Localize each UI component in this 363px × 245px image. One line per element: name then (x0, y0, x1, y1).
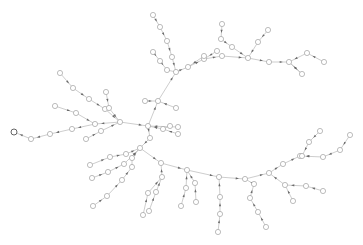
tree-node[interactable] (28, 136, 33, 141)
tree-node[interactable] (107, 154, 112, 159)
tree-node[interactable] (123, 151, 128, 156)
tree-node[interactable] (157, 24, 162, 29)
tree-node[interactable] (153, 189, 158, 194)
tree-node[interactable] (218, 36, 223, 41)
tree-node[interactable] (178, 203, 183, 208)
tree-node[interactable] (266, 170, 271, 175)
tree-node[interactable] (304, 50, 309, 55)
tree-node[interactable] (164, 38, 169, 43)
tree-node[interactable] (263, 224, 268, 229)
tree-node[interactable] (146, 208, 151, 213)
tree-node[interactable] (86, 96, 91, 101)
tree-node[interactable] (347, 132, 352, 137)
tree-node[interactable] (129, 164, 134, 169)
tree-node[interactable] (69, 126, 74, 131)
arrowhead-icon (168, 48, 170, 51)
tree-node[interactable] (169, 54, 174, 59)
tree-node[interactable] (255, 209, 260, 214)
arrowhead-icon (20, 134, 23, 136)
tree-node[interactable] (184, 167, 189, 172)
tree-node[interactable] (175, 131, 180, 136)
arrowhead-icon (169, 131, 172, 133)
tree-node[interactable] (155, 98, 160, 103)
tree-node[interactable] (47, 131, 52, 136)
tree-node[interactable] (192, 180, 197, 185)
tree-node[interactable] (57, 70, 62, 75)
tree-node[interactable] (217, 194, 222, 199)
edge (90, 157, 110, 165)
edge (105, 109, 120, 122)
tree-node[interactable] (150, 12, 155, 17)
tree-node[interactable] (299, 153, 304, 158)
tree-node[interactable] (158, 160, 163, 165)
tree-node[interactable] (52, 103, 57, 108)
tree-node[interactable] (337, 147, 342, 152)
tree-node[interactable] (160, 126, 165, 131)
tree-node[interactable] (185, 64, 190, 69)
tree-node[interactable] (104, 193, 109, 198)
tree-node[interactable] (83, 136, 88, 141)
tree-node[interactable] (216, 174, 221, 179)
tree-node[interactable] (137, 145, 142, 150)
tree-node[interactable] (129, 155, 134, 160)
tree-node[interactable] (247, 195, 252, 200)
tree-node[interactable] (201, 53, 206, 58)
tree-node[interactable] (280, 161, 285, 166)
tree-node[interactable] (145, 190, 150, 195)
tree-node[interactable] (175, 124, 180, 129)
tree-node[interactable] (219, 21, 224, 26)
tree-node[interactable] (306, 139, 311, 144)
tree-node[interactable] (145, 123, 150, 128)
tree-node[interactable] (299, 71, 304, 76)
tree-node[interactable] (229, 44, 234, 49)
tree-node[interactable] (193, 199, 198, 204)
tree-node[interactable] (140, 212, 145, 217)
tree-node[interactable] (219, 53, 224, 58)
tree-node[interactable] (70, 85, 75, 90)
tree-node[interactable] (215, 229, 220, 234)
tree-node[interactable] (173, 105, 178, 110)
tree-node[interactable] (92, 121, 97, 126)
tree-node[interactable] (245, 55, 250, 60)
tree-node[interactable] (98, 128, 103, 133)
tree-node[interactable] (150, 49, 155, 54)
tree-node[interactable] (173, 69, 178, 74)
tree-node[interactable] (87, 162, 92, 167)
tree-node[interactable] (303, 183, 308, 188)
arrowhead-icon (179, 69, 182, 71)
tree-node[interactable] (255, 39, 260, 44)
tree-node[interactable] (167, 123, 172, 128)
tree-node[interactable] (317, 128, 322, 133)
tree-node[interactable] (242, 176, 247, 181)
tree-node[interactable] (147, 135, 152, 140)
tree-node[interactable] (266, 59, 271, 64)
tree-node[interactable] (214, 48, 219, 53)
tree-node[interactable] (73, 110, 78, 115)
tree-node[interactable] (183, 185, 188, 190)
root-node[interactable] (11, 129, 17, 135)
tree-node[interactable] (89, 175, 94, 180)
tree-node[interactable] (142, 98, 147, 103)
tree-node[interactable] (121, 161, 126, 166)
tree-node[interactable] (157, 58, 162, 63)
tree-node[interactable] (321, 59, 326, 64)
tree-node[interactable] (105, 169, 110, 174)
tree-node[interactable] (159, 174, 164, 179)
tree-node[interactable] (320, 154, 325, 159)
arrowhead-icon (99, 174, 102, 176)
tree-node[interactable] (117, 119, 122, 124)
tree-node[interactable] (282, 182, 287, 187)
tree-node[interactable] (103, 89, 108, 94)
arrowhead-icon (253, 203, 256, 206)
tree-node[interactable] (290, 198, 295, 203)
tree-node[interactable] (251, 181, 256, 186)
tree-node[interactable] (286, 59, 291, 64)
tree-node[interactable] (217, 211, 222, 216)
tree-node[interactable] (106, 105, 111, 110)
tree-node[interactable] (320, 188, 325, 193)
edge (285, 185, 306, 186)
tree-node[interactable] (265, 27, 270, 32)
tree-node[interactable] (119, 177, 124, 182)
tree-node[interactable] (164, 67, 169, 72)
tree-node[interactable] (90, 203, 95, 208)
